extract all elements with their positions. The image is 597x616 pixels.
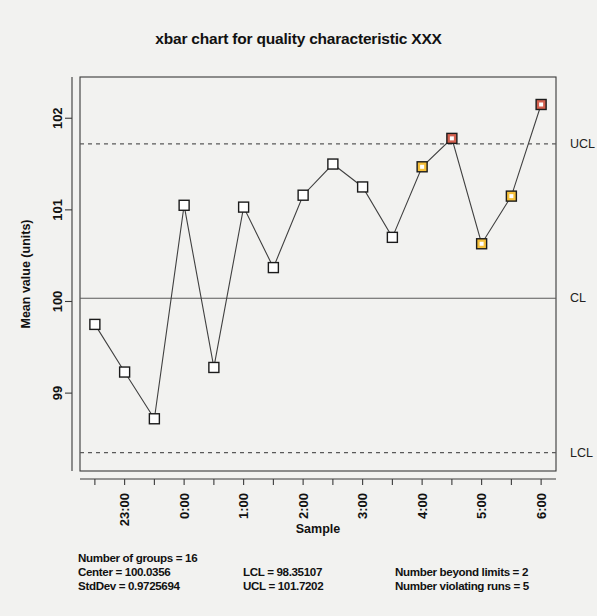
data-point-marker-center (123, 370, 127, 374)
x-axis-tick-label: 4:00 (415, 493, 430, 519)
stat-center: Center = 100.0356 (78, 565, 243, 579)
data-series-line (95, 104, 541, 418)
x-axis-tick-label: 3:00 (355, 493, 370, 519)
y-axis-tick-label: 102 (51, 107, 66, 129)
data-point-marker-center (390, 235, 394, 239)
x-axis-title: Sample (296, 522, 341, 536)
cl-label: CL (570, 291, 586, 305)
lcl-label: LCL (570, 446, 593, 460)
data-point-marker-center (212, 365, 216, 369)
xbar-control-chart: 99100101102Mean value (units)23:000:001:… (0, 0, 597, 545)
ucl-label: UCL (570, 137, 595, 151)
data-point-marker-center (420, 165, 424, 169)
data-point-marker-center (182, 203, 186, 207)
y-axis-tick-label: 99 (51, 386, 66, 400)
y-axis-tick-label: 101 (51, 199, 66, 221)
data-point-marker-center (450, 136, 454, 140)
plot-area-frame (80, 77, 556, 471)
stats-row: StdDev = 0.9725694 UCL = 101.7202 Number… (78, 579, 597, 593)
data-point-marker-center (301, 193, 305, 197)
stat-number-of-groups: Number of groups = 16 (78, 551, 243, 565)
data-point-marker-center (480, 242, 484, 246)
data-point-marker-center (509, 194, 513, 198)
data-point-marker-center (152, 417, 156, 421)
stat-violating-runs: Number violating runs = 5 (395, 579, 597, 593)
control-chart-page: xbar chart for quality characteristic XX… (0, 0, 597, 616)
data-point-marker-center (539, 102, 543, 106)
stat-lcl: LCL = 98.35107 (243, 565, 395, 579)
stats-row: Center = 100.0356 LCL = 98.35107 Number … (78, 565, 597, 579)
data-point-marker-center (93, 322, 97, 326)
x-axis-tick-label: 5:00 (474, 493, 489, 519)
stat-ucl: UCL = 101.7202 (243, 579, 395, 593)
x-axis-tick-label: 2:00 (296, 493, 311, 519)
chart-statistics-summary: Number of groups = 16 Center = 100.0356 … (78, 551, 597, 594)
x-axis-tick-label: 6:00 (534, 493, 549, 519)
data-point-marker-center (242, 205, 246, 209)
stats-row: Number of groups = 16 (78, 551, 597, 565)
data-point-marker-center (271, 266, 275, 270)
y-axis-tick-label: 100 (51, 291, 66, 313)
data-point-marker-center (361, 185, 365, 189)
x-axis-tick-label: 1:00 (236, 493, 251, 519)
data-point-marker-center (331, 162, 335, 166)
stat-stddev: StdDev = 0.9725694 (78, 579, 243, 593)
x-axis-tick-label: 0:00 (177, 493, 192, 519)
x-axis-tick-label: 23:00 (117, 493, 132, 526)
y-axis-title: Mean value (units) (19, 219, 33, 328)
stat-beyond-limits: Number beyond limits = 2 (395, 565, 597, 579)
